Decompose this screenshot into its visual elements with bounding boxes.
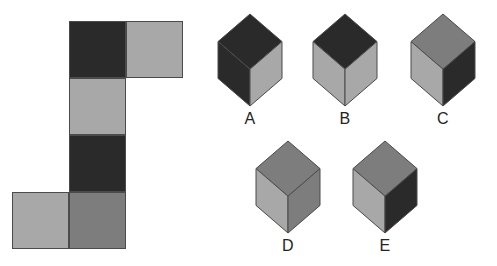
cube-label-a: A — [218, 111, 282, 127]
cube-option-c[interactable] — [411, 14, 475, 106]
net-square — [12, 192, 69, 249]
cube-net — [0, 0, 200, 266]
net-square — [126, 21, 183, 78]
cube-option-a[interactable] — [218, 14, 282, 106]
cube-option-e[interactable] — [353, 141, 417, 233]
cube-option-b[interactable] — [313, 14, 377, 106]
net-square — [69, 78, 126, 135]
cube-label-d: D — [256, 238, 320, 254]
cube-label-e: E — [353, 238, 417, 254]
cube-option-d[interactable] — [256, 141, 320, 233]
net-square — [69, 21, 126, 78]
puzzle-stage: ABCDE — [0, 0, 497, 266]
net-square — [69, 192, 126, 249]
net-square — [69, 135, 126, 192]
cube-label-b: B — [313, 111, 377, 127]
cube-label-c: C — [411, 111, 475, 127]
